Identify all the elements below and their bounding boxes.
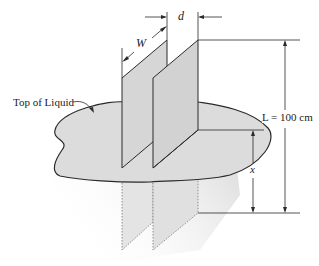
d-arrowhead-right xyxy=(198,15,204,19)
liquid-surface-label: Top of Liquid xyxy=(13,96,74,108)
l-arrowhead-bottom xyxy=(283,207,287,213)
l-arrowhead-top xyxy=(283,40,287,46)
d-arrowhead-left xyxy=(161,15,167,19)
x-arrowhead-bottom xyxy=(251,207,255,213)
length-label: L = 100 cm xyxy=(262,111,313,123)
gap-label: d xyxy=(178,9,184,24)
w-arrowhead-upper xyxy=(160,26,167,32)
height-label: x xyxy=(250,163,255,175)
w-arrowhead-lower xyxy=(122,56,129,62)
width-label: W xyxy=(136,36,146,51)
capacitor-liquid-diagram xyxy=(0,0,319,266)
